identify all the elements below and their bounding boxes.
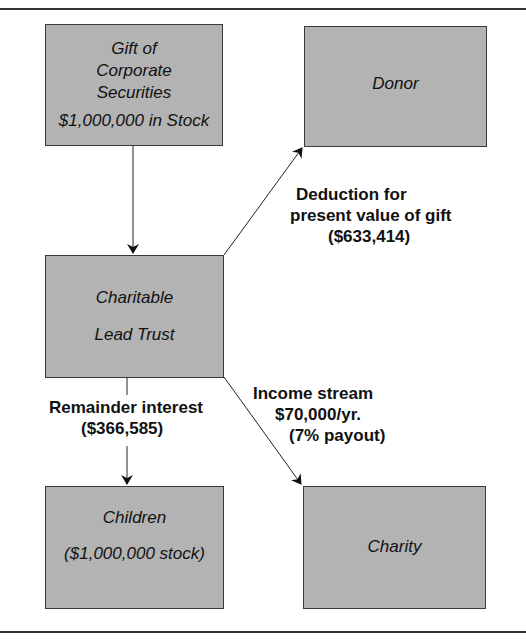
income-line-2: $70,000/yr. (253, 404, 385, 425)
node-donor: Donor (304, 26, 487, 147)
node-donor-label: Donor (372, 73, 418, 95)
node-children: Children ($1,000,000 stock) (45, 486, 224, 609)
edge-label-income: Income stream $70,000/yr. (7% payout) (253, 383, 385, 446)
deduction-line-1: Deduction for (290, 184, 490, 205)
node-trust-line-1: Charitable (96, 287, 174, 309)
edge-label-remainder: Remainder interest ($366,585) (49, 397, 203, 439)
node-gift-line-3: Securities (97, 82, 172, 104)
node-charity: Charity (303, 486, 486, 609)
node-trust-line-2: Lead Trust (94, 324, 174, 346)
income-line-1: Income stream (253, 383, 385, 404)
deduction-line-2: present value of gift (290, 205, 490, 226)
remainder-line-1: Remainder interest (49, 397, 203, 418)
remainder-line-2: ($366,585) (49, 418, 203, 439)
node-gift-line-1: Gift of (111, 38, 156, 60)
node-gift-of-securities: Gift of Corporate Securities $1,000,000 … (45, 24, 223, 146)
income-line-3: (7% payout) (253, 425, 385, 446)
deduction-line-3: ($633,414) (290, 226, 490, 247)
node-gift-line-4: $1,000,000 in Stock (59, 110, 209, 132)
node-children-line-1: Children (103, 507, 166, 529)
node-charity-label: Charity (368, 536, 422, 558)
node-charitable-lead-trust: Charitable Lead Trust (45, 255, 224, 378)
edge-label-deduction: Deduction for present value of gift ($63… (290, 184, 490, 247)
node-gift-line-2: Corporate (96, 60, 172, 82)
node-children-line-2: ($1,000,000 stock) (64, 543, 205, 565)
